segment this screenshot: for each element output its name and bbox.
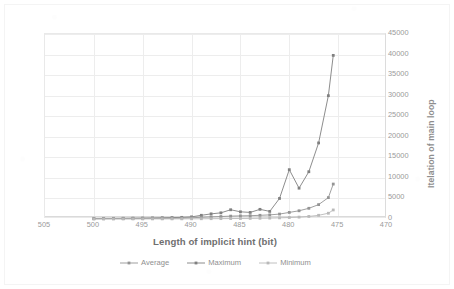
data-point <box>307 170 310 173</box>
legend-label: Minimum <box>280 259 311 267</box>
data-point <box>259 208 262 211</box>
y-tick-label: 35000 <box>388 70 424 78</box>
data-point <box>332 54 335 57</box>
y-tick-label: 10000 <box>388 173 424 181</box>
legend-label: Maximum <box>208 259 241 267</box>
y-tick-label: 25000 <box>388 111 424 119</box>
data-point <box>332 183 335 186</box>
data-point <box>327 196 330 199</box>
x-tick-label: 475 <box>317 220 357 230</box>
data-point <box>288 211 291 214</box>
y-tick-label: 5000 <box>388 193 424 201</box>
x-tick-label: 500 <box>73 220 113 230</box>
x-tick-label: 470 <box>366 220 406 230</box>
data-point <box>278 197 281 200</box>
data-point <box>327 94 330 97</box>
data-point <box>239 210 242 213</box>
data-point <box>317 203 320 206</box>
x-axis-title: Length of implicit hint (bit) <box>44 236 386 247</box>
data-point <box>210 212 213 215</box>
y-tick-label: 45000 <box>388 29 424 37</box>
x-tick-label: 490 <box>171 220 211 230</box>
data-point <box>327 212 330 215</box>
chart-canvas: 0500010000150002000025000300003500040000… <box>8 8 446 281</box>
data-point <box>288 168 291 171</box>
data-point <box>229 208 232 211</box>
legend-label: Average <box>141 259 169 267</box>
legend-marker-icon <box>186 259 206 267</box>
y-tick-label: 20000 <box>388 132 424 140</box>
data-point <box>332 209 335 212</box>
data-point <box>239 214 242 217</box>
x-tick-label: 505 <box>24 220 64 230</box>
chart-figure: 0500010000150002000025000300003500040000… <box>0 0 454 289</box>
y-tick-label: 15000 <box>388 152 424 160</box>
chart-legend: AverageMaximumMinimum <box>44 259 386 267</box>
y-axis-ticks: 0500010000150002000025000300003500040000… <box>388 33 424 218</box>
data-point <box>219 211 222 214</box>
data-point <box>288 216 291 219</box>
legend-item-minimum[interactable]: Minimum <box>258 259 311 267</box>
y-axis-title: Itelation of main loop <box>426 99 436 188</box>
data-point <box>317 142 320 145</box>
legend-item-maximum[interactable]: Maximum <box>186 259 241 267</box>
y-tick-label: 30000 <box>388 91 424 99</box>
legend-marker-icon <box>258 259 278 267</box>
data-point <box>298 187 301 190</box>
x-axis-ticks: 505500495490485480475470 <box>44 220 386 234</box>
series-plot <box>45 34 387 219</box>
data-point <box>229 215 232 218</box>
data-point <box>278 216 281 219</box>
data-point <box>278 213 281 216</box>
y-tick-label: 40000 <box>388 50 424 58</box>
data-point <box>249 211 252 214</box>
data-point <box>298 209 301 212</box>
x-tick-label: 495 <box>122 220 162 230</box>
data-point <box>317 214 320 217</box>
x-tick-label: 485 <box>219 220 259 230</box>
data-point <box>307 207 310 210</box>
data-point <box>298 216 301 219</box>
data-point <box>259 214 262 217</box>
data-point <box>268 213 271 216</box>
series-maximum <box>92 54 334 220</box>
x-tick-label: 480 <box>268 220 308 230</box>
legend-item-average[interactable]: Average <box>119 259 169 267</box>
plot-area <box>44 33 386 218</box>
legend-marker-icon <box>119 259 139 267</box>
series-line-maximum <box>94 55 333 218</box>
data-point <box>307 215 310 218</box>
data-point <box>268 210 271 213</box>
data-point <box>249 214 252 217</box>
